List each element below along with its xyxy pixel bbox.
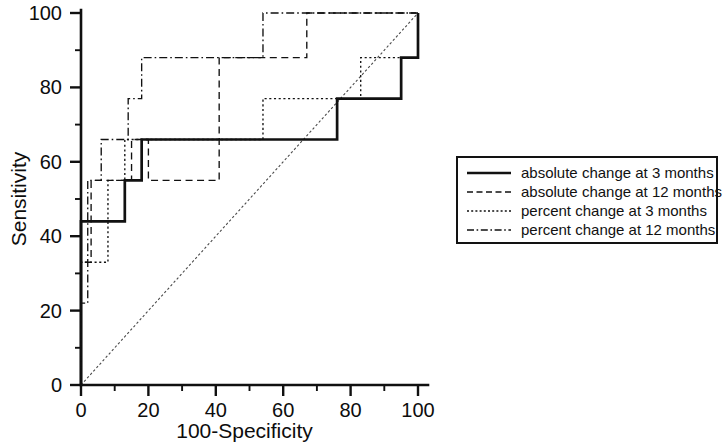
roc-curves-group (81, 13, 418, 385)
x-tick-label: 60 (272, 399, 294, 421)
legend-label-absolute-12-months: absolute change at 12 months (521, 183, 722, 200)
legend-item-absolute-12-months: absolute change at 12 months (458, 182, 716, 201)
axes-group (81, 10, 428, 385)
y-axis-label: Sensitivity (7, 151, 30, 246)
y-tick-label: 80 (40, 76, 62, 98)
legend-swatch-dashdot-icon (466, 224, 512, 236)
y-tick-label: 100 (29, 2, 62, 24)
legend-label-percent-12-months: percent change at 12 months (521, 221, 715, 238)
x-tick-label: 0 (75, 399, 86, 421)
chart-legend: absolute change at 3 months absolute cha… (456, 156, 718, 244)
x-axis-label: 100-Specificity (176, 419, 313, 442)
x-tick-label: 80 (339, 399, 361, 421)
axis-labels-group: 100-SpecificitySensitivity (7, 151, 313, 442)
reference-diagonal-line (81, 13, 418, 385)
legend-swatch-dotted-icon (466, 205, 512, 217)
x-tick-label: 100 (401, 399, 434, 421)
legend-swatch-solid-icon (466, 167, 512, 179)
tick-labels-group: 020406080100020406080100 (29, 2, 435, 421)
y-tick-label: 60 (40, 151, 62, 173)
legend-label-absolute-3-months: absolute change at 3 months (521, 164, 714, 181)
roc-curve-figure: 020406080100020406080100 100-Specificity… (0, 0, 725, 446)
legend-item-percent-12-months: percent change at 12 months (458, 220, 716, 239)
legend-label-percent-3-months: percent change at 3 months (521, 202, 707, 219)
y-tick-label: 0 (51, 374, 62, 396)
legend-swatch-dashed-icon (466, 186, 512, 198)
legend-item-percent-3-months: percent change at 3 months (458, 201, 716, 220)
y-tick-label: 20 (40, 300, 62, 322)
y-tick-label: 40 (40, 225, 62, 247)
legend-item-absolute-3-months: absolute change at 3 months (458, 163, 716, 182)
x-tick-label: 20 (137, 399, 159, 421)
x-tick-label: 40 (205, 399, 227, 421)
